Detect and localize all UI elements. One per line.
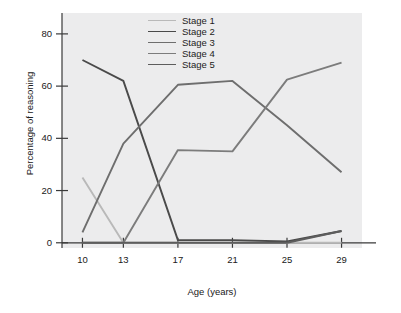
legend-item[interactable]: Stage 1 bbox=[148, 15, 215, 26]
series-line-stage-3 bbox=[82, 81, 341, 232]
series-line-stage-4 bbox=[82, 63, 341, 243]
legend-swatch-line bbox=[148, 31, 176, 32]
legend-item[interactable]: Stage 4 bbox=[148, 48, 215, 59]
figure: 020406080 101317212529 Percentage of rea… bbox=[0, 0, 401, 313]
x-tick-label: 25 bbox=[267, 255, 307, 265]
legend-swatch-line bbox=[148, 64, 176, 65]
legend-label: Stage 3 bbox=[182, 38, 215, 48]
legend-item[interactable]: Stage 5 bbox=[148, 59, 215, 70]
legend-label: Stage 1 bbox=[182, 16, 215, 26]
x-tick-label: 10 bbox=[62, 255, 102, 265]
legend-label: Stage 2 bbox=[182, 27, 215, 37]
x-tick-label: 13 bbox=[103, 255, 143, 265]
y-tick-label: 0 bbox=[6, 238, 52, 248]
y-axis-label: Percentage of reasoning bbox=[24, 49, 35, 199]
legend-label: Stage 4 bbox=[182, 49, 215, 59]
legend-item[interactable]: Stage 3 bbox=[148, 37, 215, 48]
y-tick-label: 80 bbox=[6, 29, 52, 39]
x-tick-label: 21 bbox=[212, 255, 252, 265]
axis-lines bbox=[62, 13, 376, 248]
x-tick-label: 17 bbox=[158, 255, 198, 265]
series-line-stage-1 bbox=[82, 178, 341, 243]
x-tick-label: 29 bbox=[322, 255, 362, 265]
legend-label: Stage 5 bbox=[182, 60, 215, 70]
legend-swatch-line bbox=[148, 20, 176, 21]
legend-swatch-line bbox=[148, 53, 176, 54]
x-axis-label: Age (years) bbox=[62, 286, 362, 297]
legend: Stage 1Stage 2Stage 3Stage 4Stage 5 bbox=[148, 15, 215, 70]
legend-item[interactable]: Stage 2 bbox=[148, 26, 215, 37]
legend-swatch-line bbox=[148, 42, 176, 43]
data-series-lines bbox=[82, 60, 341, 243]
